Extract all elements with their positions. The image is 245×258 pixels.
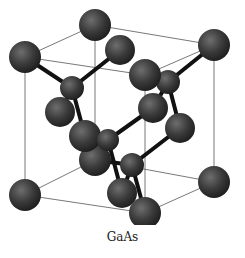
atom [69, 120, 101, 152]
atom [60, 76, 84, 100]
gaas-crystal-diagram [0, 0, 245, 225]
atom [105, 35, 135, 65]
atom [97, 129, 119, 151]
atom [165, 113, 195, 143]
atom [9, 41, 41, 73]
atom [129, 59, 161, 91]
atom [45, 97, 75, 127]
diagram-caption: GaAs [0, 230, 245, 244]
atom [79, 9, 111, 41]
atom [138, 93, 168, 123]
atom [198, 166, 230, 198]
atoms [9, 9, 230, 225]
atom [198, 29, 230, 61]
atom [120, 153, 144, 177]
atom [9, 179, 41, 211]
